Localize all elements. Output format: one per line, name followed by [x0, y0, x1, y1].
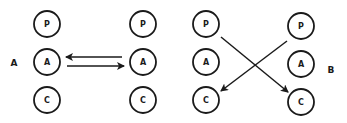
- node-label: C: [298, 98, 304, 107]
- node-label: A: [298, 60, 305, 69]
- node-right-p: P: [288, 13, 314, 39]
- node-left-p: P: [34, 11, 60, 37]
- node-label: P: [140, 20, 146, 29]
- node-right-a: A: [288, 51, 314, 77]
- node-label: C: [140, 96, 146, 105]
- panel-b: B P A C P A C: [193, 11, 335, 115]
- node-right-c: C: [130, 87, 156, 113]
- node-label: A: [44, 58, 51, 67]
- node-right-c: C: [288, 89, 314, 115]
- node-label: P: [203, 20, 209, 29]
- node-label: P: [298, 22, 304, 31]
- node-label: A: [203, 58, 210, 67]
- panel-a-label: A: [11, 58, 18, 68]
- node-left-c: C: [34, 87, 60, 113]
- node-label: P: [44, 20, 50, 29]
- node-left-c: C: [193, 87, 219, 113]
- node-left-a: A: [193, 49, 219, 75]
- diagram: A P A C P A C B: [0, 0, 347, 123]
- node-left-p: P: [193, 11, 219, 37]
- panel-b-label: B: [328, 65, 335, 75]
- node-right-a: A: [130, 49, 156, 75]
- node-right-p: P: [130, 11, 156, 37]
- node-label: C: [44, 96, 50, 105]
- node-label: C: [203, 96, 209, 105]
- node-label: A: [140, 58, 147, 67]
- node-left-a: A: [34, 49, 60, 75]
- panel-a: A P A C P A C: [11, 11, 156, 113]
